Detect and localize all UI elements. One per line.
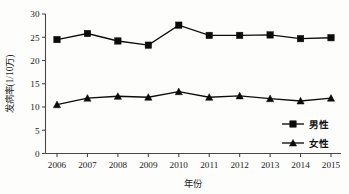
x-tick-label: 2014 (291, 160, 310, 170)
x-tick-label: 2015 (322, 160, 341, 170)
x-tick-label: 2007 (78, 160, 97, 170)
x-tick-label: 2011 (200, 160, 218, 170)
data-point-marker-square (54, 36, 60, 42)
data-point-marker-square (176, 22, 182, 28)
data-point-marker-square (267, 32, 273, 38)
series-male (54, 22, 334, 48)
data-point-marker-square (115, 38, 121, 44)
data-point-marker-square (328, 35, 334, 41)
x-tick-label: 2006 (48, 160, 67, 170)
data-series-group (53, 22, 334, 108)
series-polyline (57, 25, 331, 45)
data-point-marker-square (297, 35, 303, 41)
x-axis-ticks: 2006200720082009201020112012201320142015 (48, 154, 341, 170)
line-chart-canvas: 051015202530 200620072008200920102011201… (0, 0, 349, 194)
legend-label: 男性 (309, 119, 329, 130)
y-tick-label: 30 (30, 9, 40, 19)
y-axis-title: 发病率(1/10万) (4, 55, 16, 114)
chart-figure: 051015202530 200620072008200920102011201… (0, 0, 349, 194)
x-tick-label: 2012 (230, 160, 249, 170)
y-tick-label: 10 (30, 102, 40, 112)
x-axis-title: 年份 (184, 178, 203, 189)
x-tick-label: 2010 (170, 160, 189, 170)
y-tick-label: 0 (35, 149, 40, 159)
y-tick-label: 25 (30, 33, 40, 43)
data-point-marker-square (206, 32, 212, 38)
data-point-marker-square (145, 42, 151, 48)
x-tick-label: 2013 (261, 160, 280, 170)
series-polyline (57, 92, 331, 105)
legend-label: 女性 (309, 138, 329, 149)
y-tick-label: 20 (30, 56, 40, 66)
y-axis-ticks: 051015202530 (30, 9, 45, 159)
x-tick-label: 2009 (139, 160, 158, 170)
data-point-marker-square (84, 30, 90, 36)
y-axis: 051015202530 (30, 9, 45, 159)
legend-marker-square (290, 121, 296, 127)
chart-legend: 男性女性 (282, 119, 329, 149)
series-female (53, 88, 334, 108)
y-tick-label: 15 (30, 79, 40, 89)
x-tick-label: 2008 (109, 160, 128, 170)
x-axis: 2006200720082009201020112012201320142015 (46, 154, 342, 170)
data-point-marker-triangle (175, 88, 182, 95)
y-tick-label: 5 (35, 126, 40, 136)
data-point-marker-square (236, 32, 242, 38)
